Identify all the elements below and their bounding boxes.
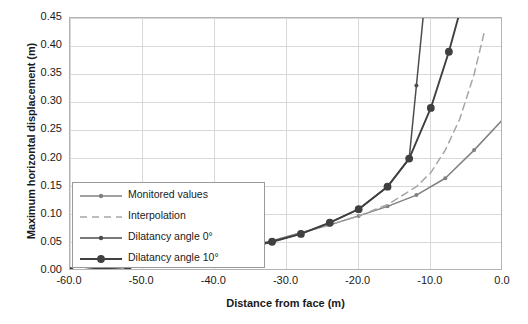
- chart-figure: Maximum horizontal displacement (m) 0.00…: [0, 0, 528, 324]
- y-tick-label: 0.25: [22, 122, 62, 134]
- y-tick-label: 0.35: [22, 66, 62, 78]
- series-marker-3: [326, 219, 334, 227]
- legend-label: Interpolation: [128, 209, 186, 221]
- legend-item: Monitored values: [73, 183, 264, 204]
- series-marker-0: [414, 193, 418, 197]
- y-tick-label: 0.45: [22, 10, 62, 22]
- x-tick-label: -60.0: [39, 274, 99, 286]
- series-marker-0: [443, 176, 447, 180]
- series-marker-0: [501, 117, 502, 121]
- series-marker-3: [427, 104, 435, 112]
- series-marker-0: [70, 269, 72, 270]
- x-tick-label: -10.0: [400, 274, 460, 286]
- y-tick-label: 0.05: [22, 235, 62, 247]
- y-tick-label: 0.20: [22, 151, 62, 163]
- legend-label: Dilatancy angle 0°: [128, 230, 213, 242]
- series-marker-3: [384, 183, 392, 191]
- legend-key-swatch: [79, 251, 123, 263]
- x-tick-label: -30.0: [256, 274, 316, 286]
- series-marker-3: [355, 205, 363, 213]
- legend-label: Monitored values: [128, 188, 208, 200]
- chart-legend: Monitored valuesInterpolationDilatancy a…: [72, 182, 265, 268]
- legend-key-swatch: [79, 188, 123, 200]
- series-marker-0: [472, 148, 476, 152]
- series-marker-3: [268, 238, 276, 246]
- x-tick-label: -20.0: [328, 274, 388, 286]
- legend-item: Dilatancy angle 10°: [73, 246, 264, 267]
- legend-key-swatch: [79, 209, 123, 221]
- x-axis-title: Distance from face (m): [69, 297, 502, 309]
- y-tick-label: 0.10: [22, 207, 62, 219]
- y-tick-label: 0.15: [22, 179, 62, 191]
- x-tick-label: -50.0: [111, 274, 171, 286]
- x-tick-label: 0.0: [472, 274, 528, 286]
- series-marker-3: [297, 230, 305, 238]
- legend-item: Interpolation: [73, 204, 264, 225]
- legend-item: Dilatancy angle 0°: [73, 225, 264, 246]
- x-tick-label: -40.0: [183, 274, 243, 286]
- series-line-1: [301, 29, 485, 233]
- y-tick-label: 0.30: [22, 94, 62, 106]
- legend-label: Dilatancy angle 10°: [128, 251, 219, 263]
- series-marker-2: [414, 83, 418, 87]
- legend-key-swatch: [79, 230, 123, 242]
- series-marker-2: [70, 269, 72, 270]
- y-tick-label: 0.40: [22, 38, 62, 50]
- series-marker-3: [445, 48, 453, 56]
- series-marker-3: [405, 155, 413, 163]
